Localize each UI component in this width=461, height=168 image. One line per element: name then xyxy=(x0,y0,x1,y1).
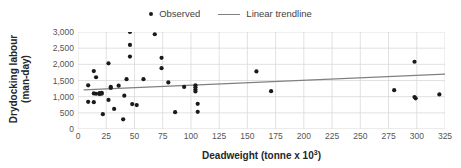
data-point xyxy=(101,112,105,116)
data-point xyxy=(124,77,128,81)
plot-area xyxy=(78,32,445,129)
x-axis-tick-label: 175 xyxy=(269,132,283,141)
trendline-path xyxy=(84,74,445,90)
grid-lines xyxy=(78,32,445,129)
data-point xyxy=(193,89,197,93)
x-axis-tick-label: 225 xyxy=(325,132,339,141)
x-axis-title-text: Deadweight (tonne x 103) xyxy=(202,150,321,161)
x-axis-tick-label: 200 xyxy=(297,132,311,141)
y-axis-tick-label: 0 xyxy=(40,125,74,134)
data-point xyxy=(412,60,416,64)
data-point xyxy=(92,69,96,73)
legend-line-marker-icon xyxy=(218,14,240,15)
data-point xyxy=(130,102,134,106)
data-point xyxy=(100,91,104,95)
data-point xyxy=(117,84,121,88)
data-point xyxy=(173,110,177,114)
scatter-chart: Observed Linear trendline Drydocking lab… xyxy=(0,0,461,168)
x-axis-tick-label: 125 xyxy=(212,132,226,141)
data-point xyxy=(106,98,110,102)
x-axis-tick-label: 150 xyxy=(240,132,254,141)
data-point xyxy=(112,107,116,111)
y-axis-tick-label: 500 xyxy=(40,109,74,118)
x-axis-tick-label: 275 xyxy=(381,132,395,141)
trendline xyxy=(84,74,445,90)
x-axis-tick-label: 300 xyxy=(410,132,424,141)
legend-dot-marker-icon xyxy=(149,12,153,16)
data-point xyxy=(128,54,132,58)
data-point xyxy=(269,89,273,93)
data-point xyxy=(121,117,125,121)
data-point xyxy=(182,85,186,89)
data-point xyxy=(106,61,110,65)
x-axis-title: Deadweight (tonne x 103) xyxy=(78,149,445,161)
legend-item-linear-trendline: Linear trendline xyxy=(218,9,312,19)
x-axis-tick-label: 75 xyxy=(158,132,167,141)
data-point xyxy=(196,110,200,114)
data-point xyxy=(135,103,139,107)
data-point xyxy=(159,66,163,70)
x-axis-tick-label: 100 xyxy=(184,132,198,141)
y-axis-tick-label: 1,000 xyxy=(40,93,74,102)
data-point xyxy=(86,100,90,104)
x-axis-tick-label: 50 xyxy=(130,132,139,141)
data-point xyxy=(166,80,170,84)
y-axis-tick-label: 1,500 xyxy=(40,77,74,86)
y-axis-tick-labels: 05001,0001,5002,0002,5003,000 xyxy=(38,0,74,168)
legend-label-linear-trendline: Linear trendline xyxy=(246,9,312,19)
x-axis-tick-label: 25 xyxy=(101,132,110,141)
data-point xyxy=(122,94,126,98)
x-axis-tick-label: 0 xyxy=(76,132,81,141)
data-point xyxy=(196,102,200,106)
y-axis-title-line1: Drydocking labour xyxy=(8,35,19,123)
data-point xyxy=(437,92,441,96)
y-axis-tick-label: 3,000 xyxy=(40,28,74,37)
data-point xyxy=(128,43,132,47)
data-point xyxy=(86,83,90,87)
data-point xyxy=(254,69,258,73)
x-axis-tick-labels: 0255075100125150175200225250275300325 xyxy=(78,132,445,144)
data-point xyxy=(109,86,113,90)
x-axis-tick-label: 325 xyxy=(438,132,452,141)
x-axis-tick-label: 250 xyxy=(353,132,367,141)
data-point xyxy=(141,77,145,81)
data-point xyxy=(153,32,157,36)
data-point xyxy=(94,75,98,79)
data-point xyxy=(92,100,96,104)
data-point xyxy=(159,56,163,60)
y-axis-tick-label: 2,500 xyxy=(40,44,74,53)
legend-label-observed: Observed xyxy=(159,9,200,19)
legend-item-observed: Observed xyxy=(149,9,200,19)
data-point xyxy=(392,88,396,92)
plot-canvas xyxy=(78,32,445,129)
data-point xyxy=(128,32,132,34)
data-point xyxy=(414,96,418,100)
y-axis-title-line2: (man-day) xyxy=(20,55,31,103)
y-axis-tick-label: 2,000 xyxy=(40,60,74,69)
